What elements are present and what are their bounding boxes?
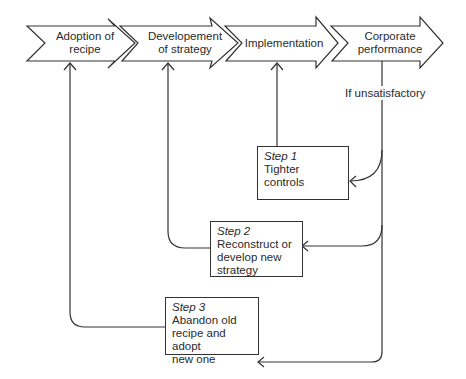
step-1-box: Step 1 Tighter controls xyxy=(257,146,349,200)
stage-label-adoption: Adoption ofrecipe xyxy=(45,30,125,56)
step-2-box: Step 2 Reconstruct or develop new strate… xyxy=(210,221,303,277)
stage-label-implementation: Implementation xyxy=(244,37,324,50)
step-3-box: Step 3 Abandon old recipe and adopt new … xyxy=(165,297,259,355)
step-1-title: Step 1 xyxy=(264,150,342,163)
step-2-title: Step 2 xyxy=(217,225,296,238)
step-3-title: Step 3 xyxy=(172,301,252,314)
condition-label: If unsatisfactory xyxy=(345,87,455,100)
stage-label-development: Developementof strategy xyxy=(140,30,230,56)
stage-label-corporate: Corporateperformance xyxy=(350,30,430,56)
